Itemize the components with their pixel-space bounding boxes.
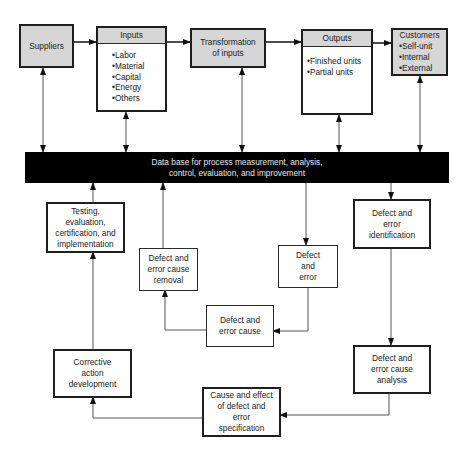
testing-line: certification, and: [55, 228, 115, 239]
inputs-item: Labor: [112, 50, 165, 61]
transformation-box: Transformation of inputs: [190, 28, 266, 68]
defect-error-box: Defect and error: [278, 245, 338, 288]
transformation-line1: Transformation: [200, 37, 256, 48]
outputs-list: Finished units Partial units: [303, 56, 371, 78]
cause-analysis-line: Defect and: [372, 353, 412, 364]
outputs-title: Outputs: [303, 31, 371, 47]
outputs-item: Finished units: [307, 56, 371, 67]
outputs-item: Partial units: [307, 67, 371, 78]
error-cause-box: Defect and error cause: [206, 305, 274, 347]
cause-effect-line: error: [233, 412, 251, 423]
testing-line: Testing,: [71, 206, 100, 217]
defect-error-line: Defect: [296, 250, 320, 261]
cause-effect-line: specification: [219, 423, 265, 434]
cause-analysis-box: Defect and error cause analysis: [353, 345, 431, 394]
inputs-item: Material: [112, 61, 165, 72]
corrective-line: action: [81, 368, 103, 379]
corrective-action-box: Corrective action development: [53, 349, 132, 398]
error-cause-line: error cause: [219, 326, 261, 337]
inputs-title: Inputs: [98, 28, 165, 44]
cause-removal-box: Defect and error cause removal: [139, 248, 198, 291]
inputs-list: Labor Material Capital Energy Others: [98, 50, 165, 104]
customers-list: Self-unit Internal External: [393, 41, 446, 73]
cause-analysis-line: analysis: [377, 375, 407, 386]
inputs-box: Inputs Labor Material Capital Energy Oth…: [96, 26, 167, 112]
identification-line: identification: [369, 230, 415, 241]
customers-item: External: [399, 63, 446, 74]
suppliers-box: Suppliers: [19, 24, 74, 68]
identification-line: error: [383, 219, 401, 230]
testing-box: Testing, evaluation, certification, and …: [46, 202, 125, 253]
defect-error-line: and: [301, 261, 315, 272]
database-line2: control, evaluation, and improvement: [25, 168, 449, 179]
cause-effect-line: Cause and effect: [210, 390, 273, 401]
customers-box: Customers Self-unit Internal External: [391, 28, 448, 76]
cause-analysis-line: error cause: [371, 364, 413, 375]
suppliers-label: Suppliers: [29, 41, 64, 52]
corrective-line: Corrective: [74, 357, 112, 368]
cause-removal-line: error cause: [148, 264, 190, 275]
error-cause-line: Defect and: [220, 315, 260, 326]
inputs-item: Capital: [112, 72, 165, 83]
cause-removal-line: removal: [154, 275, 184, 286]
identification-box: Defect and error identification: [353, 199, 431, 249]
inputs-item: Others: [112, 93, 165, 104]
customers-item: Self-unit: [399, 41, 446, 52]
identification-line: Defect and: [372, 208, 412, 219]
customers-item: Internal: [399, 52, 446, 63]
testing-line: evaluation,: [65, 217, 105, 228]
testing-line: implementation: [57, 239, 113, 250]
cause-removal-line: Defect and: [148, 253, 188, 264]
outputs-box: Outputs Finished units Partial units: [301, 29, 373, 115]
defect-error-line: error: [299, 272, 317, 283]
database-line1: Data base for process measurement, analy…: [25, 157, 449, 168]
cause-effect-line: of defect and: [218, 401, 266, 412]
corrective-line: development: [69, 379, 117, 390]
cause-effect-box: Cause and effect of defect and error spe…: [202, 387, 281, 437]
database-bar: Data base for process measurement, analy…: [25, 152, 449, 183]
inputs-item: Energy: [112, 82, 165, 93]
transformation-line2: of inputs: [212, 48, 243, 59]
customers-title: Customers: [399, 30, 439, 41]
